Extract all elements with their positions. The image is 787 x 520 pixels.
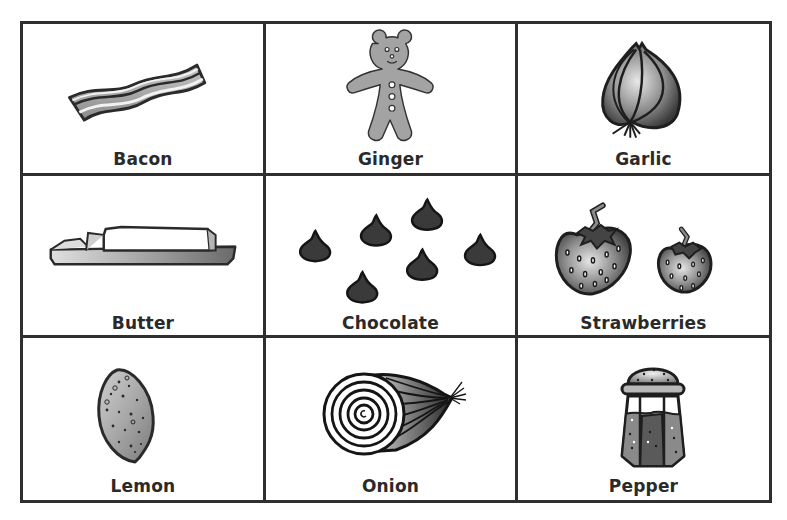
- grid-cell-butter: Butter: [23, 176, 266, 338]
- label-onion: Onion: [266, 476, 515, 496]
- grid-cell-garlic: Garlic: [518, 24, 769, 176]
- label-strawberries: Strawberries: [518, 313, 769, 333]
- grid-cell-chocolate: Chocolate: [266, 176, 518, 338]
- grid-cell-lemon: Lemon: [23, 338, 266, 500]
- label-butter: Butter: [23, 313, 263, 333]
- grid-cell-pepper: Pepper: [518, 338, 769, 500]
- strawberries-icon: [518, 176, 769, 335]
- label-ginger: Ginger: [266, 149, 515, 169]
- grid-cell-bacon: Bacon: [23, 24, 266, 176]
- label-chocolate: Chocolate: [266, 313, 515, 333]
- ingredient-picture-grid: Bacon Ginger: [20, 21, 772, 503]
- label-pepper: Pepper: [518, 476, 769, 496]
- grid-cell-onion: Onion: [266, 338, 518, 500]
- label-bacon: Bacon: [23, 149, 263, 169]
- butter-icon: [23, 176, 263, 335]
- grid-cell-ginger: Ginger: [266, 24, 518, 176]
- label-lemon: Lemon: [23, 476, 263, 496]
- grid-cell-strawberries: Strawberries: [518, 176, 769, 338]
- label-garlic: Garlic: [518, 149, 769, 169]
- chocolate-chips-icon: [266, 176, 515, 335]
